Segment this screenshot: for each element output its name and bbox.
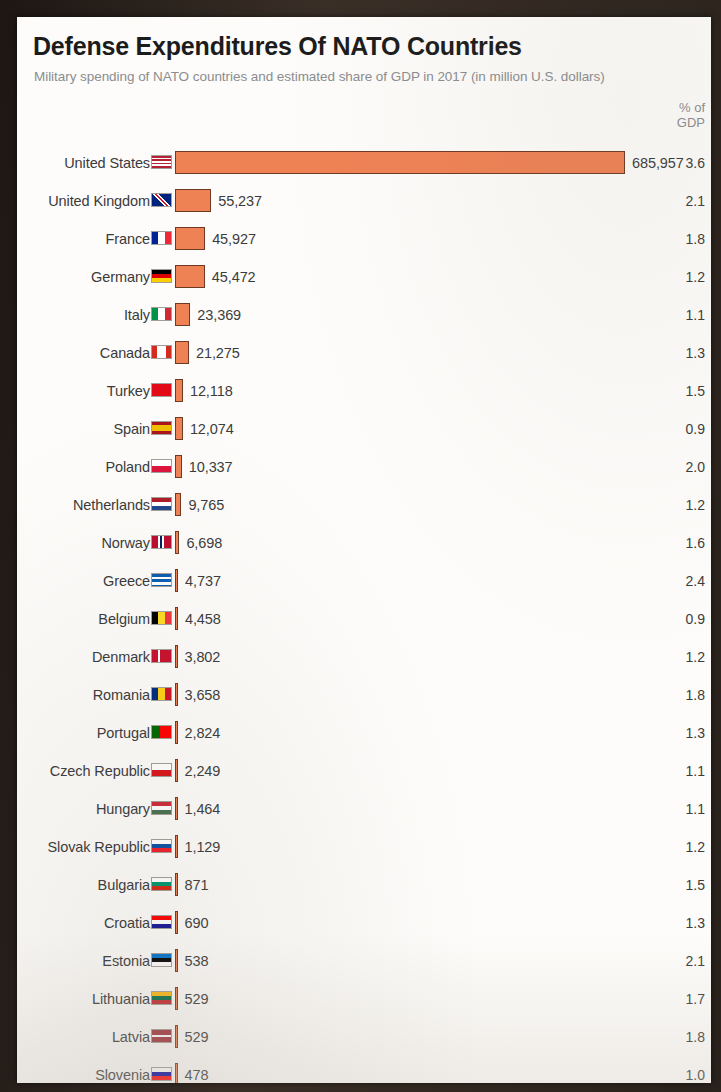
value-bar [175, 1025, 178, 1048]
flag-us-icon [151, 155, 172, 169]
value-bar [175, 911, 178, 934]
country-label: Slovenia [95, 1067, 150, 1083]
flag-lt-icon [151, 991, 172, 1005]
country-label: Belgium [98, 611, 150, 627]
gdp-percent-value: 1.8 [659, 1029, 705, 1045]
country-label: Bulgaria [98, 877, 150, 893]
country-label: Netherlands [73, 497, 150, 513]
flag-sk-icon [151, 839, 172, 853]
value-bar [175, 341, 189, 364]
country-label: Germany [91, 269, 150, 285]
country-label: Hungary [96, 801, 150, 817]
flag-nl-icon [151, 497, 172, 511]
gdp-percent-value: 1.2 [659, 649, 705, 665]
gdp-percent-value: 1.2 [659, 497, 705, 513]
chart-row: Estonia5382.1 [17, 943, 711, 981]
gdp-percent-value: 1.8 [659, 231, 705, 247]
value-label: 3,802 [185, 649, 221, 665]
page-title: Defense Expenditures Of NATO Countries [33, 32, 522, 61]
country-label: United Kingdom [48, 193, 150, 209]
chart-row: Turkey12,1181.5 [17, 373, 711, 411]
value-bar [175, 721, 178, 744]
value-label: 4,737 [185, 573, 221, 589]
value-label: 55,237 [218, 193, 262, 209]
flag-es-icon [151, 421, 172, 435]
value-label: 2,824 [185, 725, 221, 741]
value-label: 10,337 [189, 459, 233, 475]
flag-dk-icon [151, 649, 172, 663]
value-label: 529 [185, 991, 209, 1007]
chart-row: United Kingdom55,2372.1 [17, 183, 711, 221]
chart-rows: United States685,9573.6United Kingdom55,… [17, 145, 711, 1083]
chart-row: Greece4,7372.4 [17, 563, 711, 601]
gdp-percent-value: 1.0 [659, 1067, 705, 1083]
gdp-percent-value: 2.1 [659, 193, 705, 209]
country-label: Portugal [97, 725, 150, 741]
value-bar [175, 1063, 178, 1083]
chart-row: Italy23,3691.1 [17, 297, 711, 335]
gdp-column-header-line1: % of [645, 100, 705, 115]
value-label: 4,458 [185, 611, 221, 627]
value-label: 3,658 [185, 687, 221, 703]
gdp-percent-value: 1.2 [659, 269, 705, 285]
flag-tr-icon [151, 383, 172, 397]
value-label: 12,118 [190, 383, 233, 399]
gdp-column-header: % of GDP [645, 100, 705, 130]
country-label: Lithuania [92, 991, 150, 1007]
value-label: 1,129 [185, 839, 221, 855]
flag-lv-icon [151, 1029, 172, 1043]
gdp-percent-value: 1.3 [659, 345, 705, 361]
flag-no-icon [151, 535, 172, 549]
value-label: 9,765 [188, 497, 224, 513]
gdp-percent-value: 3.6 [659, 155, 705, 171]
chart-row: Canada21,2751.3 [17, 335, 711, 373]
country-label: Latvia [112, 1029, 150, 1045]
chart-row: United States685,9573.6 [17, 145, 711, 183]
country-label: Spain [113, 421, 150, 437]
gdp-percent-value: 1.5 [659, 383, 705, 399]
chart-subtitle: Military spending of NATO countries and … [34, 69, 605, 84]
country-label: Croatia [104, 915, 150, 931]
country-label: United States [64, 155, 150, 171]
chart-row: France45,9271.8 [17, 221, 711, 259]
gdp-percent-value: 1.3 [659, 915, 705, 931]
value-bar [175, 493, 181, 516]
gdp-percent-value: 0.9 [659, 611, 705, 627]
value-label: 690 [185, 915, 209, 931]
value-bar [175, 759, 178, 782]
flag-bg-icon [151, 877, 172, 891]
value-label: 2,249 [185, 763, 221, 779]
value-label: 12,074 [190, 421, 234, 437]
chart-row: Czech Republic2,2491.1 [17, 753, 711, 791]
country-label: Estonia [102, 953, 150, 969]
chart-row: Belgium4,4580.9 [17, 601, 711, 639]
value-bar [175, 569, 178, 592]
flag-ee-icon [151, 953, 172, 967]
flag-si-icon [151, 1067, 172, 1081]
country-label: Norway [101, 535, 150, 551]
country-label: France [105, 231, 150, 247]
value-bar [175, 949, 178, 972]
gdp-percent-value: 1.2 [659, 839, 705, 855]
chart-row: Germany45,4721.2 [17, 259, 711, 297]
flag-ca-icon [151, 345, 172, 359]
value-bar [175, 189, 211, 212]
chart-row: Bulgaria8711.5 [17, 867, 711, 905]
value-label: 478 [185, 1067, 209, 1083]
gdp-column-header-line2: GDP [645, 115, 705, 130]
flag-hr-icon [151, 915, 172, 929]
chart-row: Portugal2,8241.3 [17, 715, 711, 753]
flag-hu-icon [151, 801, 172, 815]
value-bar [175, 303, 190, 326]
value-label: 1,464 [185, 801, 221, 817]
country-label: Denmark [92, 649, 150, 665]
gdp-percent-value: 1.1 [659, 307, 705, 323]
value-bar [175, 683, 178, 706]
chart-row: Slovenia4781.0 [17, 1057, 711, 1083]
gdp-percent-value: 1.6 [659, 535, 705, 551]
flag-gr-icon [151, 573, 172, 587]
gdp-percent-value: 1.3 [659, 725, 705, 741]
value-bar [175, 417, 183, 440]
chart-row: Norway6,6981.6 [17, 525, 711, 563]
value-bar [175, 987, 178, 1010]
